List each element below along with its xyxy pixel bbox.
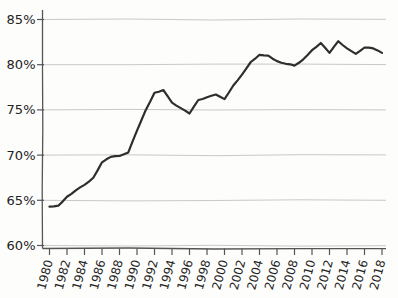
y-tick-label: 75% xyxy=(7,102,36,117)
gridline-70 xyxy=(43,155,387,156)
chart-canvas: 85%80%75%70%65%60%1980198219841986198819… xyxy=(0,0,398,298)
data-line xyxy=(50,41,383,206)
gridline-85 xyxy=(43,19,387,20)
y-tick-label: 85% xyxy=(7,12,36,27)
y-tick-label: 65% xyxy=(7,193,36,208)
y-tick-label: 70% xyxy=(7,148,36,163)
gridline-60 xyxy=(43,245,387,246)
gridline-80 xyxy=(43,64,387,65)
y-tick-label: 60% xyxy=(7,238,36,253)
gridline-75 xyxy=(43,109,387,110)
y-axis-line xyxy=(42,10,43,249)
gridline-65 xyxy=(43,200,387,201)
line-chart: 85%80%75%70%65%60%1980198219841986198819… xyxy=(0,0,398,298)
y-tick-label: 80% xyxy=(7,57,36,72)
x-axis-line xyxy=(43,248,387,249)
